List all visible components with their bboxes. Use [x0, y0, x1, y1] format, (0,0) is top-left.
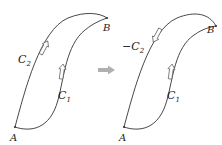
arrow-up-icon — [58, 64, 67, 80]
line-integral-diagram: A B C2 C1 A B −C2 C1 — [0, 0, 222, 145]
point-a-dot — [14, 126, 16, 128]
arrow-up-icon — [38, 39, 51, 56]
right-panel: A B −C2 C1 — [118, 14, 217, 143]
point-b-dot — [215, 25, 217, 27]
point-a-dot — [123, 126, 125, 128]
label-c2: C2 — [18, 53, 31, 68]
arrow-up-icon — [167, 64, 176, 80]
point-b-dot — [106, 17, 108, 19]
label-c1: C1 — [58, 89, 71, 104]
label-a: A — [118, 132, 126, 143]
label-a: A — [9, 132, 17, 143]
transition-arrow-icon — [98, 66, 115, 75]
label-b: B — [102, 22, 110, 33]
label-b: B — [206, 24, 214, 35]
left-panel: A B C2 C1 — [9, 13, 110, 143]
arrow-down-icon — [150, 27, 163, 44]
label-c1: C1 — [167, 89, 180, 104]
label-minus-c2: −C2 — [122, 40, 145, 55]
